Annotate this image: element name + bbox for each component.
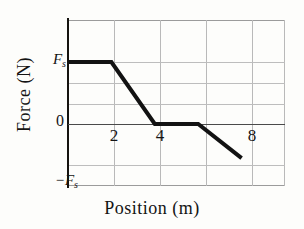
- x-tick-label-8: 8: [242, 126, 262, 146]
- y-tick-label-neg-fs: −Fs: [55, 172, 78, 190]
- x-axis-title: Position (m): [0, 198, 304, 219]
- y-axis-title: Force (N): [14, 25, 35, 165]
- y-tick-fs-sub: s: [62, 58, 66, 69]
- chart-figure: Fs 0 −Fs 2 4 8 Position (m) Force (N): [0, 0, 304, 229]
- y-tick-fs-main: F: [53, 51, 62, 67]
- y-tick-neg-fs-sub: s: [74, 179, 78, 190]
- force-position-curve: [0, 0, 304, 229]
- y-tick-label-fs: Fs: [53, 51, 66, 69]
- x-tick-label-2: 2: [104, 126, 124, 146]
- y-tick-label-zero: 0: [56, 112, 64, 130]
- y-tick-neg-fs-main: −F: [55, 172, 74, 188]
- x-tick-label-4: 4: [150, 126, 170, 146]
